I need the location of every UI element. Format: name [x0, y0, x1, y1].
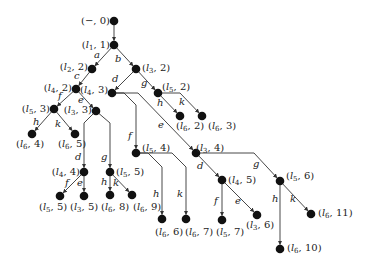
edge-label: d — [112, 73, 118, 84]
node-label: (l5, 7) — [216, 226, 244, 239]
edge-label: f — [127, 130, 134, 141]
node-n_l5_6 — [276, 177, 285, 186]
node-n_l3_6 — [253, 211, 262, 220]
edge-label: k — [113, 177, 119, 188]
node-n_l6_2 — [176, 112, 185, 121]
node-label: (l5, 3) — [22, 103, 50, 116]
edge-label: g — [253, 158, 259, 169]
node-n_l4_4 — [80, 168, 89, 177]
node-n_l6_4 — [28, 130, 37, 139]
node-label: (l3, 6) — [246, 219, 274, 232]
edge-label: h — [33, 116, 39, 127]
edge-label: d — [197, 160, 203, 171]
node-n_l5_5 — [56, 192, 65, 201]
edge-label: k — [177, 188, 183, 199]
node-n_l6_9 — [128, 191, 137, 200]
edge-n_l4_3-to-n_l5_4 — [112, 93, 136, 149]
edge-label: k — [179, 96, 185, 107]
edge-label: k — [290, 193, 296, 204]
edge-label: d — [75, 151, 81, 162]
edge-label: h — [101, 176, 107, 187]
tree-diagram: abcdghkfehkdgfehkfehkdgfehk (−, 0)(l1, 1… — [0, 0, 368, 269]
edge-label: h — [272, 193, 278, 204]
node-n_l2_2 — [88, 65, 97, 74]
node-n_l3_2 — [132, 65, 141, 74]
edge-label: h — [153, 188, 159, 199]
node-n_l6_8 — [106, 191, 115, 200]
edge-label: e — [235, 195, 241, 206]
node-n_l6_10 — [276, 245, 285, 254]
edge-label: g — [101, 151, 107, 162]
node-n_root — [110, 17, 119, 26]
nodes-layer — [28, 17, 316, 254]
node-label: (l5, 5) — [39, 201, 67, 214]
node-label: (l6, 3) — [208, 120, 236, 133]
node-label: (l5, 6) — [286, 170, 314, 183]
edge-label: e — [77, 177, 83, 188]
node-n_l4_2 — [72, 85, 81, 94]
node-label: (l5, 5) — [116, 166, 144, 179]
node-label: (l6, 2) — [176, 120, 204, 133]
node-n_l3_5 — [80, 192, 89, 201]
node-label: (l3, 2) — [142, 62, 170, 75]
node-label: (l6, 5) — [58, 138, 86, 151]
node-n_l6_5 — [71, 130, 80, 139]
node-n_l5_7 — [218, 216, 227, 225]
node-label: (l3, 5) — [70, 201, 98, 214]
node-n_l6_3 — [198, 112, 207, 121]
node-label: (l6, 10) — [287, 242, 322, 255]
edge-label: b — [115, 53, 121, 64]
node-label: (−, 0) — [81, 15, 110, 26]
edge-label: h — [157, 97, 163, 108]
node-n_l5_2 — [154, 89, 163, 98]
node-n_l5_4 — [132, 149, 141, 158]
node-n_l3_3 — [92, 107, 101, 116]
node-n_l6_7 — [182, 215, 191, 224]
node-n_l6_11 — [307, 210, 316, 219]
node-label: (l6, 6) — [155, 226, 183, 239]
node-label: (l6, 8) — [101, 201, 129, 214]
node-n_l4_5 — [218, 176, 227, 185]
node-label: (l4, 5) — [228, 174, 256, 187]
node-label: (l6, 9) — [133, 201, 161, 214]
node-n_l6_6 — [158, 215, 167, 224]
node-label: (l4, 3) — [80, 84, 108, 97]
node-label: (l6, 4) — [16, 138, 44, 151]
node-n_l5_3 — [50, 105, 59, 114]
node-n_l4_3 — [108, 89, 117, 98]
node-label: (l3, 3) — [64, 104, 92, 117]
node-label: (l6, 7) — [185, 226, 213, 239]
edge-label: e — [158, 119, 164, 130]
node-label: (l5, 2) — [162, 81, 190, 94]
edge-label: f — [213, 195, 220, 206]
edge-label: a — [94, 49, 100, 60]
edge-label: k — [55, 118, 61, 129]
node-label: (l6, 11) — [318, 207, 353, 220]
node-n_l1_1 — [110, 41, 119, 50]
edge-label: g — [141, 77, 147, 88]
node-n_l5_5b — [106, 168, 115, 177]
